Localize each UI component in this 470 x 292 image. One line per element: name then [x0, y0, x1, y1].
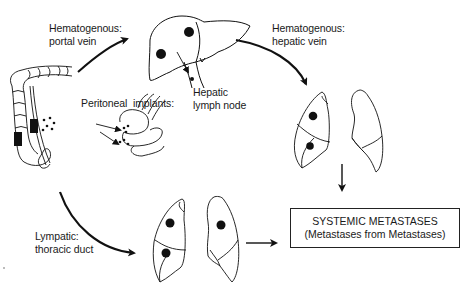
lung-lesion: [217, 221, 226, 230]
lungs-lower-illustration: [153, 196, 239, 282]
liver-lesion: [184, 27, 194, 37]
tumor-cells-icon: [42, 117, 56, 132]
label-line: lymph node: [193, 99, 246, 112]
box-title: SYSTEMIC METASTASES: [291, 215, 459, 228]
label-line: hepatic vein: [272, 35, 345, 48]
systemic-metastases-box: SYSTEMIC METASTASES (Metastases from Met…: [290, 208, 460, 248]
label-thoracic-duct: Lympatic: thoracic duct: [35, 230, 93, 255]
label-hepatic-vein: Hematogenous: hepatic vein: [272, 22, 345, 47]
label-line: Hematogenous:: [272, 22, 345, 35]
label-hepatic-lymph-node: Hepatic lymph node: [193, 86, 246, 111]
label-line: portal vein: [49, 35, 122, 48]
liver-lesion: [156, 49, 166, 59]
lungs-upper-illustration: [294, 90, 382, 172]
tumor-mass: [14, 132, 22, 146]
lung-lesion: [162, 249, 171, 258]
label-line: thoracic duct: [35, 243, 93, 256]
label-portal-vein: Hematogenous: portal vein: [49, 22, 122, 47]
lung-lesion: [309, 112, 318, 121]
implant-pointer: [96, 124, 120, 130]
box-subtitle: (Metastases from Metastases): [291, 228, 459, 241]
label-peritoneal-implants: Peritoneal implants:: [81, 97, 174, 110]
implant-pointer: [100, 132, 118, 144]
lung-lesion: [306, 142, 314, 150]
tumor-mass: [30, 119, 38, 133]
lung-lesion: [166, 219, 175, 228]
label-line: Lympatic:: [35, 230, 93, 243]
lymph-node-pointer: [177, 52, 188, 72]
label-line: Hematogenous:: [49, 22, 122, 35]
label-line: Hepatic: [193, 86, 246, 99]
lymph-node-icon: [190, 77, 194, 81]
colon-illustration: [10, 66, 72, 168]
scan-speck: [3, 267, 5, 269]
